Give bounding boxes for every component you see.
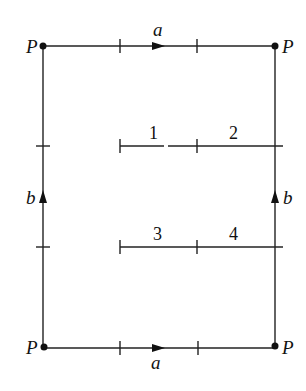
arrow-right-icon <box>152 42 165 50</box>
segment-label-3: 3 <box>153 225 162 243</box>
segment-label-4: 4 <box>229 225 238 243</box>
arrow-right-icon <box>152 344 165 352</box>
edge-label-left: b <box>26 188 36 207</box>
vertex-dot <box>41 344 48 351</box>
arrow-up-icon <box>271 190 279 203</box>
diagram-lines <box>0 0 306 391</box>
segment-label-2: 2 <box>229 124 238 142</box>
vertex-label-top-right: P <box>282 37 294 56</box>
segment-label-1: 1 <box>149 124 158 142</box>
arrow-up-icon <box>39 190 47 203</box>
edge-label-bottom: a <box>151 353 161 372</box>
vertex-label-bottom-right: P <box>282 338 294 357</box>
vertex-dot <box>40 43 47 50</box>
vertex-dot <box>272 43 279 50</box>
vertex-label-top-left: P <box>26 37 38 56</box>
vertex-label-bottom-left: P <box>26 338 38 357</box>
diagram-canvas: P P P P a a b b 1 2 3 4 <box>0 0 306 391</box>
edge-label-right: b <box>283 188 293 207</box>
vertex-dot <box>272 343 279 350</box>
edge-label-top: a <box>153 20 163 39</box>
